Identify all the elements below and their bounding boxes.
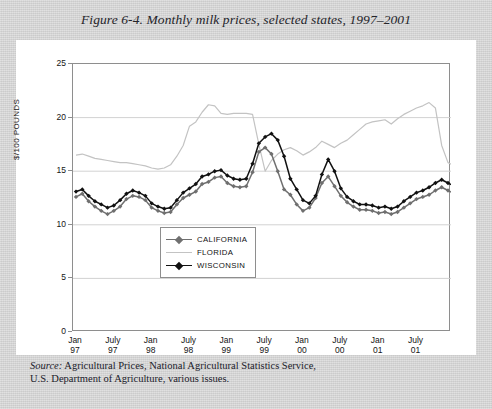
x-tick-label: Jan99 <box>206 335 246 355</box>
x-tick-label: Jan01 <box>358 335 398 355</box>
legend-label: CALIFORNIA <box>197 235 247 244</box>
data-point <box>376 205 380 209</box>
y-tick-mark <box>68 224 72 225</box>
y-tick-label: 25 <box>40 58 66 68</box>
data-point <box>383 210 387 214</box>
y-tick-label: 20 <box>40 112 66 122</box>
y-axis-title: $/100 POUNDS <box>12 99 21 160</box>
x-tick-label: Jan97 <box>55 335 95 355</box>
data-point <box>162 207 166 211</box>
x-tick-year: 99 <box>206 345 246 355</box>
x-tick-month: July <box>320 335 360 345</box>
legend-swatch-icon <box>166 260 192 271</box>
data-point <box>162 211 166 215</box>
data-point <box>238 178 242 182</box>
x-tick-month: July <box>93 335 133 345</box>
chart-legend: CALIFORNIAFLORIDAWISCONSIN <box>160 227 256 278</box>
x-tick-label: July97 <box>93 335 133 355</box>
data-point <box>389 212 393 216</box>
y-tick-mark <box>68 277 72 278</box>
x-tick-month: July <box>168 335 208 345</box>
x-tick-year: 98 <box>131 345 171 355</box>
data-point <box>376 211 380 215</box>
legend-label: FLORIDA <box>197 248 233 257</box>
y-tick-mark <box>68 170 72 171</box>
legend-swatch-icon <box>166 247 192 258</box>
data-point <box>238 185 242 189</box>
x-tick-month: Jan <box>206 335 246 345</box>
data-point <box>276 169 280 173</box>
data-point <box>421 195 425 199</box>
x-tick-label: Jan00 <box>282 335 322 355</box>
series-line-california <box>76 148 451 214</box>
source-line-2: U.S. Department of Agriculture, various … <box>30 373 229 384</box>
y-tick-mark <box>68 117 72 118</box>
x-tick-year: 97 <box>55 345 95 355</box>
source-label: Source: <box>30 360 62 371</box>
y-tick-label: 15 <box>40 165 66 175</box>
data-point <box>282 154 286 158</box>
data-point <box>370 203 374 207</box>
x-tick-year: 01 <box>358 345 398 355</box>
data-point <box>74 189 78 193</box>
x-tick-month: July <box>395 335 435 345</box>
x-tick-year: 00 <box>282 345 322 355</box>
figure-card: $/100 POUNDS 0510152025 Jan97July97Jan98… <box>16 40 476 355</box>
chart-svg <box>73 64 451 332</box>
data-point <box>383 204 387 208</box>
x-tick-label: Jan98 <box>131 335 171 355</box>
x-tick-year: 98 <box>168 345 208 355</box>
x-tick-month: July <box>244 335 284 345</box>
data-point <box>244 184 248 188</box>
y-tick-label: 10 <box>40 219 66 229</box>
figure-title: Figure 6-4. Monthly milk prices, selecte… <box>0 12 492 28</box>
y-tick-mark <box>68 63 72 64</box>
x-tick-label: July01 <box>395 335 435 355</box>
x-tick-label: July00 <box>320 335 360 355</box>
plot-area <box>72 63 450 331</box>
x-tick-month: Jan <box>131 335 171 345</box>
data-point <box>364 208 368 212</box>
x-tick-label: July99 <box>244 335 284 355</box>
x-tick-year: 97 <box>93 345 133 355</box>
legend-item-wisconsin: WISCONSIN <box>166 259 249 272</box>
data-point <box>364 202 368 206</box>
legend-item-california: CALIFORNIA <box>166 233 249 246</box>
y-tick-label: 5 <box>40 272 66 282</box>
data-point <box>389 207 393 211</box>
data-point <box>370 209 374 213</box>
source-line-1: Agricultural Prices, National Agricultur… <box>64 360 316 371</box>
data-point <box>244 177 248 181</box>
data-point <box>320 172 324 176</box>
legend-swatch-icon <box>166 234 192 245</box>
x-tick-year: 99 <box>244 345 284 355</box>
x-tick-year: 00 <box>320 345 360 355</box>
source-note: Source: Agricultural Prices, National Ag… <box>30 360 430 385</box>
x-tick-year: 01 <box>395 345 435 355</box>
legend-item-florida: FLORIDA <box>166 246 249 259</box>
x-tick-label: July98 <box>168 335 208 355</box>
legend-label: WISCONSIN <box>197 261 245 270</box>
x-tick-month: Jan <box>282 335 322 345</box>
y-tick-mark <box>68 331 72 332</box>
x-tick-month: Jan <box>55 335 95 345</box>
x-tick-month: Jan <box>358 335 398 345</box>
